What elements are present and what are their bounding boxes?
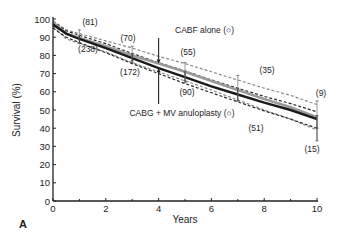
at-risk-count-label: (238) (78, 44, 98, 54)
annotations: (81)(70)(55)(35)(9)(238)(172)(90)(51)(15… (78, 17, 326, 154)
y-tick-label: 80 (39, 50, 50, 61)
annotation-label-cabg: CABG + MV anuloplasty (○) (129, 108, 234, 118)
x-tick-label: 2 (103, 203, 108, 214)
x-tick-label: 8 (262, 203, 267, 214)
x-axis-title: Years (172, 214, 197, 225)
y-tick-label: 70 (39, 68, 50, 79)
y-tick-label: 0 (45, 196, 50, 207)
at-risk-count-label: (90) (179, 87, 194, 97)
y-tick-label: 50 (39, 105, 50, 116)
at-risk-count-label: (35) (259, 65, 274, 75)
x-tick-label: 6 (209, 203, 214, 214)
y-tick-label: 20 (39, 159, 50, 170)
at-risk-count-label: (172) (120, 67, 140, 77)
plot-area (53, 21, 319, 141)
y-tick-label: 60 (39, 86, 50, 97)
x-tick-label: 0 (50, 203, 55, 214)
y-tick-label: 10 (39, 177, 50, 188)
at-risk-count-label: (81) (82, 17, 97, 27)
y-tick-label: 30 (39, 141, 50, 152)
x-tick-label: 4 (156, 203, 161, 214)
survival-chart: 01020304050607080901000246810 (81)(70)(5… (0, 0, 340, 243)
at-risk-count-label: (9) (316, 88, 327, 98)
x-tick-label: 10 (312, 203, 323, 214)
y-tick-label: 90 (39, 32, 50, 43)
at-risk-count-label: (70) (120, 33, 135, 43)
y-tick-label: 40 (39, 123, 50, 134)
at-risk-count-label: (55) (180, 47, 195, 57)
at-risk-count-label: (51) (248, 123, 263, 133)
at-risk-count-label: (15) (304, 144, 319, 154)
y-axis-title: Survival (%) (11, 83, 22, 137)
y-tick-label: 100 (34, 14, 50, 25)
annotation-label-cabf: CABF alone (○) (175, 25, 234, 35)
panel-label: A (19, 218, 27, 230)
